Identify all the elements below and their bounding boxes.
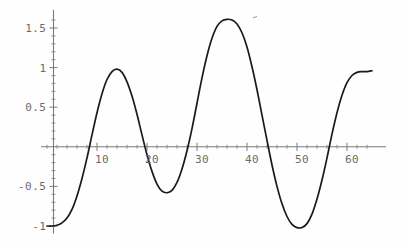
y-tick-label-0_5: 0.5 <box>25 102 46 113</box>
x-tick-label-10: 10 <box>95 154 109 165</box>
y-tick-label-neg1: -1 <box>32 221 46 232</box>
y-tick-label-1_5: 1.5 <box>25 23 46 34</box>
x-tick-label-50: 50 <box>295 154 309 165</box>
plot-canvas <box>0 0 409 249</box>
x-tick-label-20: 20 <box>145 154 159 165</box>
y-tick-label-1: 1 <box>39 63 46 74</box>
chart-figure: 102030405060 -1-0.50.511.5 <box>0 0 409 249</box>
x-tick-label-30: 30 <box>195 154 209 165</box>
y-tick-label-neg0_5: -0.5 <box>18 181 47 192</box>
x-tick-label-40: 40 <box>245 154 259 165</box>
data-series-curve <box>47 19 372 228</box>
scan-artifact-speck <box>253 16 257 18</box>
x-tick-label-60: 60 <box>345 154 359 165</box>
